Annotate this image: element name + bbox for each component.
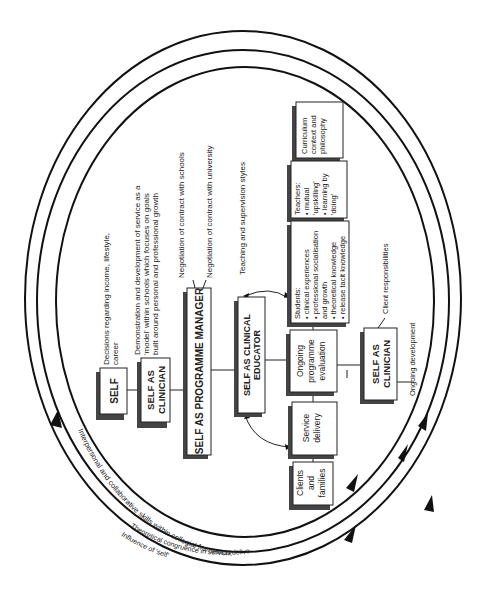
arrow-icon [424,495,434,512]
svg-text:SELF AS PROGRAMME MANAGER: SELF AS PROGRAMME MANAGER [194,287,205,454]
svg-text:Demonstration and development: Demonstration and development of service… [133,185,142,355]
svg-text:SELF AS: SELF AS [370,344,381,384]
svg-text:SELF AS CLINICAL: SELF AS CLINICAL [242,313,252,396]
node-self-as-clinician: SELF AS CLINICIAN [137,358,170,428]
svg-text:'doing': 'doing' [329,193,338,215]
self-roles-diagram: Interpersonal and collaborative skills w… [0,0,485,592]
svg-text:• professional socialisation: • professional socialisation [311,231,320,319]
svg-text:• learning by: • learning by [320,173,329,215]
node-curriculum: Curriculum context and philosophy [292,102,343,162]
annotation-demonstration: Demonstration and development of service… [133,185,160,355]
svg-text:'upskilling': 'upskilling' [311,181,320,215]
annotation-client-responsibilities: Client responsibilities [381,243,390,314]
svg-text:CLINICIAN: CLINICIAN [156,366,167,414]
svg-text:Clients: Clients [295,470,305,496]
svg-text:• theoretical knowledge: • theoretical knowledge [329,242,338,319]
svg-text:Curriculum: Curriculum [300,118,309,154]
svg-text:built around personal and prof: built around personal and professional g… [151,193,160,355]
node-self-as-clinician-2: SELF AS CLINICIAN [360,328,397,404]
svg-text:Teachers:: Teachers: [293,182,302,215]
svg-text:Students:: Students: [293,287,302,319]
svg-text:CLINICIAN: CLINICIAN [381,340,392,388]
node-students: Students: • clinical experiences • profe… [287,221,349,327]
annotation-negotiation-schools: Negotiation of contract with schools [177,152,186,278]
svg-text:• clinical experiences: • clinical experiences [302,249,311,319]
svg-text:• release tacit knowledge: • release tacit knowledge [338,236,347,319]
svg-text:delivery: delivery [312,413,322,443]
node-self-as-programme-manager: SELF AS PROGRAMME MANAGER [183,287,211,459]
node-teachers: Teachers: • mutual 'upskilling' • learni… [287,161,347,222]
node-clients-and-families: Clients and families [289,462,333,510]
svg-text:EDUCATOR: EDUCATOR [252,329,262,380]
node-self-as-clinical-educator: SELF AS CLINICAL EDUCATOR [234,297,265,417]
arrow-icon [346,474,358,492]
svg-text:Ongoing: Ongoing [295,345,305,377]
annotation-decisions: Decisions regarding income, lifestyle, c… [102,233,120,365]
node-ongoing-programme-evaluation: Ongoing programme evaluation [286,330,337,396]
svg-text:'model' within schools which f: 'model' within schools which focuses on … [142,193,151,355]
svg-text:philosophy: philosophy [318,118,327,154]
annotation-ongoing-development: Ongoing development [408,322,417,396]
annotation-negotiation-university: Negotiation of contract with university [205,145,214,278]
node-service-delivery: Service delivery [288,402,337,459]
svg-text:Service: Service [301,414,311,443]
svg-text:context and: context and [309,115,318,154]
svg-text:Decisions regarding income, li: Decisions regarding income, lifestyle, [102,233,111,365]
annotation-teaching-styles: Teaching and supervision styles [238,162,247,275]
svg-text:evaluation: evaluation [317,341,327,380]
svg-text:families: families [317,469,327,498]
svg-text:and growth: and growth [320,282,329,319]
svg-text:SELF AS: SELF AS [145,370,156,410]
svg-text:SELF: SELF [109,378,120,404]
svg-text:• mutual: • mutual [302,187,311,215]
svg-text:programme: programme [306,339,316,383]
svg-text:and: and [306,476,316,490]
node-self: SELF [96,368,127,420]
svg-text:career: career [111,342,120,365]
